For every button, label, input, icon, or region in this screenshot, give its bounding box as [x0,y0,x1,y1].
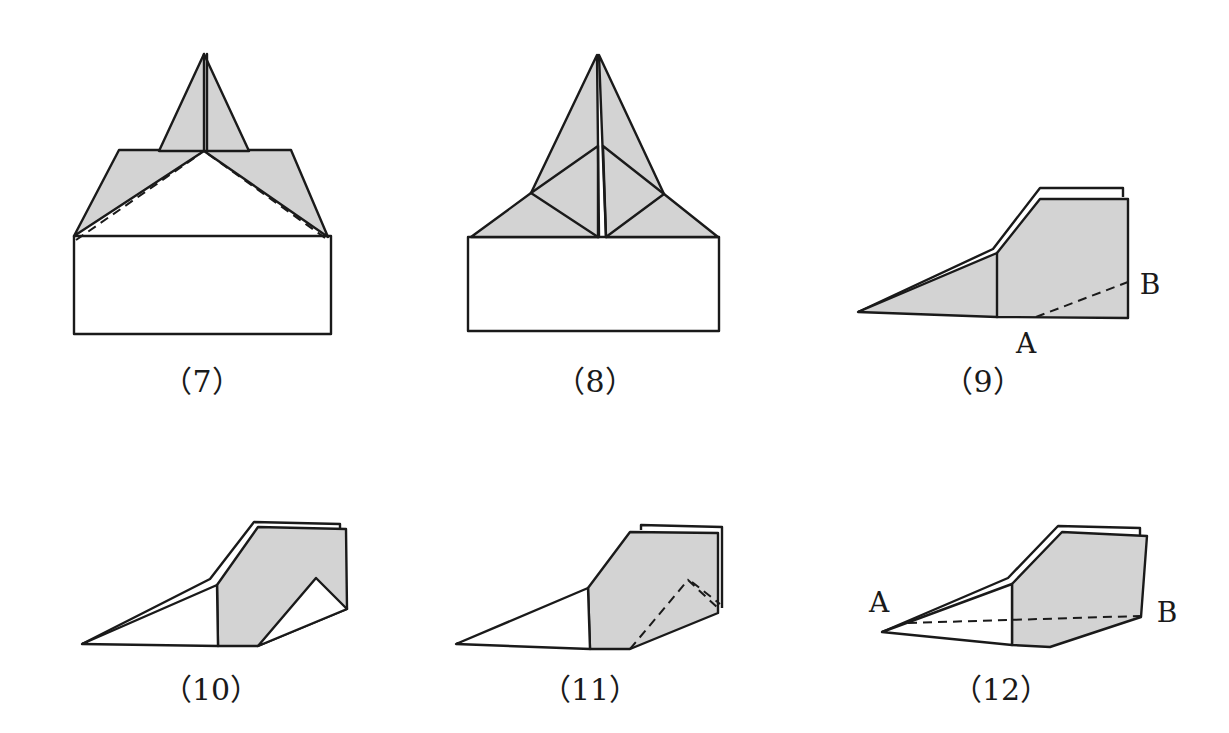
step-12-shaded-body [1012,532,1147,647]
step-8-caption: （8） [555,364,634,399]
step-8-body [468,237,719,331]
step-10-nose-flap [82,585,218,646]
step-12-point-b: B [1157,596,1178,629]
folding-diagram: （7） （8） A B （9） （10） （11） [0,0,1229,733]
step-12-point-a: A [868,586,890,619]
step-7-figure: （7） [74,54,331,399]
step-9-point-a: A [1015,327,1037,360]
step-11-nose-flap [456,588,590,649]
step-12-nose-flap [882,584,1012,645]
step-8-left-half [471,55,599,237]
step-9-figure: A B （9） [858,188,1160,399]
step-11-figure: （11） [456,525,722,707]
step-7-body [74,236,331,334]
step-10-figure: （10） [82,522,347,707]
step-9-caption: （9） [943,364,1022,399]
step-7-wing-flaps [74,150,328,237]
step-12-caption: （12） [952,672,1050,707]
step-8-right-half [599,55,718,237]
step-11-caption: （11） [541,672,639,707]
step-9-shaded-body [858,199,1128,318]
step-12-figure: A B （12） [868,526,1177,707]
step-7-caption: （7） [162,364,241,399]
step-11-shaded-body [588,532,718,649]
step-8-figure: （8） [468,55,719,399]
step-9-point-b: B [1140,268,1161,301]
step-10-caption: （10） [162,672,260,707]
